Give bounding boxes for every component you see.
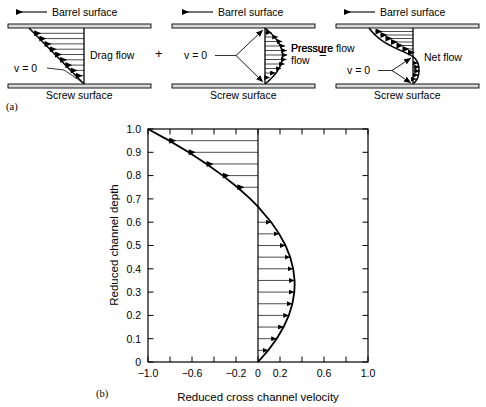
- chart-y-ticklabel: 0.8: [126, 169, 141, 181]
- figure-svg: Barrel surface Drag flow v = 0 Screw sur…: [0, 0, 486, 407]
- net-flow-label: Net flow: [424, 51, 462, 63]
- chart-x-ticklabel: −0.6: [182, 367, 203, 379]
- panel-net-flow: Barrel surface Net flow v = 0 Screw surf…: [336, 6, 479, 101]
- chart-y-ticklabel: 0.6: [126, 216, 141, 228]
- screw-surface-label-left: Screw surface: [46, 89, 113, 101]
- chart-y-ticklabel: 1.0: [126, 123, 141, 135]
- chart-ylabel: Reduced channel depth: [108, 184, 120, 306]
- screw-surface-bar-left: [8, 84, 151, 88]
- chart-y-ticklabel: 0.3: [126, 286, 141, 298]
- zero-velocity-label-left: v = 0: [14, 62, 37, 74]
- zero-velocity-leader-middle-down: [236, 56, 263, 83]
- barrel-surface-label-middle: Barrel surface: [218, 6, 284, 18]
- barrel-surface-label-left: Barrel surface: [52, 6, 118, 18]
- zero-velocity-label-right: v = 0: [347, 64, 370, 76]
- drag-flow-label: Drag flow: [90, 49, 135, 61]
- panel-pressure-flow: Barrel surface Pressure flow Pressure fl…: [172, 6, 355, 101]
- panel-a-label: (a): [6, 101, 18, 113]
- zero-velocity-leader-right-up: [392, 58, 411, 71]
- chart-x-ticklabels: −1.0−0.6−0.200.20.61.0: [138, 367, 376, 379]
- operator-plus: +: [155, 46, 163, 61]
- chart-y-ticklabel: 0.4: [126, 263, 141, 275]
- panel-b-label: (b): [96, 388, 109, 400]
- chart-y-ticklabel: 0.1: [126, 333, 141, 345]
- chart-y-ticklabels: 00.10.20.30.40.50.60.70.80.91.0: [126, 123, 141, 368]
- operator-equals: =: [319, 46, 327, 61]
- chart-panel: −1.0−0.6−0.200.20.61.0 00.10.20.30.40.50…: [96, 123, 375, 403]
- screw-surface-bar-middle: [172, 84, 315, 88]
- chart-velocity-arrows: [169, 141, 294, 351]
- chart-x-ticklabel: 1.0: [361, 367, 376, 379]
- chart-xlabel: Reduced cross channel velocity: [177, 391, 339, 403]
- chart-x-ticklabel: −0.2: [226, 367, 247, 379]
- zero-velocity-leader-right-down: [392, 71, 411, 84]
- panel-drag-flow: Barrel surface Drag flow v = 0 Screw sur…: [8, 6, 151, 101]
- screw-surface-label-right: Screw surface: [374, 89, 441, 101]
- chart-y-ticklabel: 0.9: [126, 146, 141, 158]
- chart-y-ticklabel: 0.7: [126, 193, 141, 205]
- barrel-surface-bar-left: [8, 24, 151, 28]
- zero-velocity-leader-middle-up: [236, 30, 263, 56]
- pressure-flow-label-line2: flow: [291, 54, 310, 66]
- net-flow-profile-curve: [369, 28, 419, 84]
- chart-x-ticklabel: 0.2: [273, 367, 288, 379]
- chart-x-ticklabel: 0: [255, 367, 261, 379]
- chart-y-ticklabel: 0: [135, 356, 141, 368]
- chart-x-ticklabel: −1.0: [138, 367, 159, 379]
- screw-surface-bar-right: [336, 84, 479, 88]
- zero-velocity-label-middle: v = 0: [184, 49, 207, 61]
- chart-y-ticklabel: 0.5: [126, 239, 141, 251]
- figure-container: Barrel surface Drag flow v = 0 Screw sur…: [0, 0, 486, 407]
- chart-x-ticklabel: 0.6: [317, 367, 332, 379]
- screw-surface-label-middle: Screw surface: [210, 89, 277, 101]
- pressure-flow-profile-curve: [265, 28, 283, 84]
- chart-y-ticklabel: 0.2: [126, 309, 141, 321]
- barrel-surface-bar-middle: [172, 24, 315, 28]
- barrel-surface-bar-right: [336, 24, 479, 28]
- barrel-surface-label-right: Barrel surface: [380, 6, 446, 18]
- drag-flow-profile-line: [29, 28, 84, 84]
